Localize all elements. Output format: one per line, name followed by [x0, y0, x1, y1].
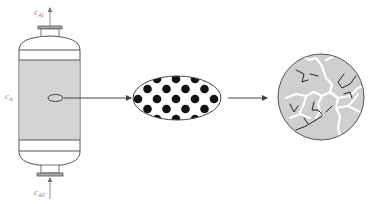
bulk-concentration-label: cA — [5, 92, 13, 104]
outlet-concentration-label: cAf — [34, 8, 43, 20]
porous-particle — [278, 54, 364, 142]
top-flange — [38, 26, 62, 29]
bottom-nozzle — [41, 165, 59, 173]
bottom-flange — [37, 173, 63, 176]
inlet-concentration-label: cA0 — [34, 188, 45, 200]
reactor-vessel — [19, 8, 80, 199]
catalyst-pellet — [124, 75, 228, 124]
diagram-canvas: cAf cA cA0 — [0, 0, 370, 204]
